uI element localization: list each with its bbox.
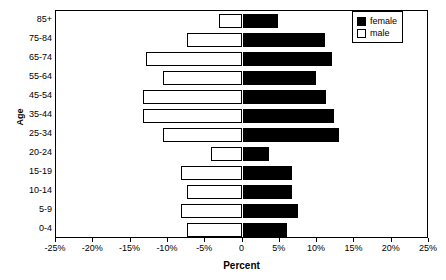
x-axis-tick-mark [55,238,56,242]
bar-female-85plus [243,14,278,28]
y-axis-tick-label: 0-4 [12,224,52,233]
bar-male-10-14 [187,185,242,199]
y-axis-tick-label: 25-34 [12,129,52,138]
bar-female-0-4 [243,223,288,237]
x-axis-tick-mark [428,238,429,242]
y-axis-tick-label: 55-64 [12,72,52,81]
x-axis-tick-mark [391,238,392,242]
bar-female-5-9 [243,204,298,218]
y-axis-tick-label: 10-14 [12,186,52,195]
bar-male-65-74 [146,52,243,66]
bar-male-5-9 [181,204,242,218]
y-axis-tick-label: 5-9 [12,205,52,214]
legend-item-male: male [357,27,397,39]
y-axis-tick-label: 20-24 [12,148,52,157]
x-axis-tick-mark [92,238,93,242]
chart-legend: femalemale [352,11,403,43]
y-axis-tick-labels: 85+75-8465-7455-6445-5435-4425-3420-2415… [12,10,52,238]
bar-male-15-19 [181,166,242,180]
bar-female-65-74 [243,52,333,66]
y-axis-tick-label: 65-74 [12,53,52,62]
legend-item-female: female [357,15,397,27]
x-axis-tick-mark [204,238,205,242]
x-axis-tick-mark [167,238,168,242]
bar-male-55-64 [163,71,242,85]
bar-female-75-84 [243,33,325,47]
bar-male-25-34 [163,128,242,142]
bar-female-15-19 [243,166,293,180]
bars-layer [56,11,427,237]
x-axis-tick-label: 25% [406,243,446,253]
bar-female-10-14 [243,185,293,199]
legend-label: female [370,17,397,26]
bar-male-75-84 [187,33,242,47]
bar-female-55-64 [243,71,317,85]
bar-male-20-24 [211,147,242,161]
y-axis-tick-label: 75-84 [12,34,52,43]
y-axis-tick-label: 35-44 [12,110,52,119]
y-axis-tick-label: 15-19 [12,167,52,176]
bar-female-20-24 [243,147,270,161]
bar-male-35-44 [143,109,243,123]
bar-male-85plus [219,14,243,28]
legend-label: male [370,29,390,38]
y-axis-tick-label: 45-54 [12,91,52,100]
bar-male-45-54 [143,90,243,104]
legend-swatch-filled-icon [357,17,366,26]
population-pyramid-chart: Age 85+75-8465-7455-6445-5435-4425-3420-… [0,0,446,280]
bar-female-35-44 [243,109,335,123]
legend-swatch-open-icon [357,29,366,38]
x-axis-tick-mark [279,238,280,242]
y-axis-tick-label: 85+ [12,15,52,24]
x-axis-title: Percent [55,260,428,271]
x-axis-tick-labels: -25%-20%-15%-10%-5%05%10%15%20%25% [55,243,428,257]
bar-female-25-34 [243,128,340,142]
plot-area [55,10,428,238]
x-axis-tick-mark [316,238,317,242]
x-axis-tick-mark [353,238,354,242]
x-axis-tick-mark [242,238,243,242]
x-axis-tick-mark [130,238,131,242]
bar-female-45-54 [243,90,327,104]
bar-male-0-4 [187,223,243,237]
